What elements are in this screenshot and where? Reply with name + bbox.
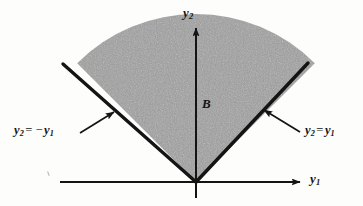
right-eq-equals: = xyxy=(315,123,325,137)
left-eq-rhs-sub: 1 xyxy=(50,129,54,138)
region-b-label: B xyxy=(202,97,211,110)
y1-axis-label: y1 xyxy=(310,172,320,186)
right-eq-rhs-sub: 1 xyxy=(331,129,335,138)
right-boundary-equation: y2=y1 xyxy=(305,124,335,138)
figure-container: y2 y1 B y2=−y1 y2=y1 xyxy=(0,0,363,206)
cone-region-diagram xyxy=(0,0,363,206)
left-eq-equals: = xyxy=(24,123,34,137)
y2-axis-label-sub: 2 xyxy=(189,11,193,21)
left-boundary-equation: y2=−y1 xyxy=(14,124,54,138)
y2-axis-label: y2 xyxy=(183,6,193,20)
left-eq-sign: − xyxy=(34,123,44,137)
y1-axis-label-sub: 1 xyxy=(316,177,320,187)
